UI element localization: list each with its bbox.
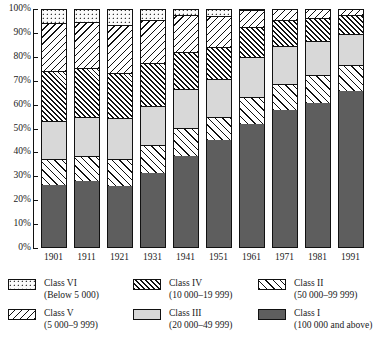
bar-stack[interactable] [338,9,364,248]
bar-segment-class-iii[interactable] [240,57,264,97]
bar-segment-class-ii[interactable] [207,117,231,141]
bar-segment-class-i[interactable] [306,103,330,247]
y-axis-tick-label: 30% [1,171,31,181]
y-axis-tick-label: 90% [1,28,31,38]
bar-segment-class-vi[interactable] [141,9,165,19]
legend-class-name: Class III [169,307,261,319]
bar-stack[interactable] [140,9,166,248]
bar-segment-class-i[interactable] [108,186,132,247]
bar-segment-class-i[interactable] [141,173,165,247]
legend-entry[interactable]: Class IV(10 000–19 999) [133,278,261,306]
bar-segment-class-iv[interactable] [42,71,66,121]
bar-segment-class-vi[interactable] [207,9,231,16]
bar-segment-class-v[interactable] [339,9,363,15]
bar-column[interactable] [338,9,364,248]
bar-stack[interactable] [305,9,331,248]
bar-segment-class-iii[interactable] [306,41,330,75]
legend-entry[interactable]: Class III(20 000–49 999) [133,308,261,336]
bar-segment-class-iv[interactable] [174,52,198,90]
bar-segment-class-ii[interactable] [339,65,363,91]
bar-segment-class-iii[interactable] [108,118,132,158]
bar-segment-class-ii[interactable] [75,156,99,181]
bar-segment-class-iii[interactable] [174,89,198,128]
bar-segment-class-iii[interactable] [273,46,297,84]
bar-segment-class-i[interactable] [174,156,198,247]
bar-segment-class-v[interactable] [42,23,66,71]
legend-text: Class II(50 000–99 999) [294,277,385,301]
bar-segment-class-v[interactable] [75,22,99,68]
bar-segment-class-i[interactable] [207,140,231,247]
legend-entry[interactable]: Class VI(Below 5 000) [8,278,136,306]
bar-segment-class-i[interactable] [75,181,99,247]
y-axis-tick-mark [33,105,38,106]
bar-segment-class-iii[interactable] [75,117,99,156]
bar-segment-class-v[interactable] [108,25,132,73]
bar-stack[interactable] [239,9,265,248]
y-axis-tick-label: 0% [1,243,31,253]
bar-segment-class-iii[interactable] [141,106,165,145]
bar-segment-class-iii[interactable] [42,121,66,158]
legend-class-range: (5 000–9 999) [44,319,136,331]
x-axis-tick-label: 1921 [103,252,137,263]
y-axis-tick-mark [33,200,38,201]
bar-segment-class-iv[interactable] [75,68,99,117]
bar-column[interactable] [272,9,298,248]
bar-segment-class-iv[interactable] [273,20,297,46]
bar-column[interactable] [305,9,331,248]
y-axis-tick-label: 20% [1,195,31,205]
bar-segment-class-vi[interactable] [174,9,198,15]
bar-segment-class-ii[interactable] [141,145,165,172]
bar-stack[interactable] [206,9,232,248]
bar-stack[interactable] [41,9,67,248]
bar-segment-class-v[interactable] [306,9,330,18]
bar-segment-class-vi[interactable] [75,9,99,22]
bar-stack[interactable] [173,9,199,248]
legend-entry[interactable]: Class I(100 000 and above) [258,308,385,336]
legend-class-name: Class V [44,307,136,319]
bar-segment-class-iv[interactable] [339,15,363,34]
bar-segment-class-v[interactable] [174,15,198,51]
legend-text: Class IV(10 000–19 999) [169,277,261,301]
bar-segment-class-i[interactable] [273,110,297,247]
bar-segment-class-iv[interactable] [207,47,231,80]
bar-column[interactable] [41,9,67,248]
bar-segment-class-v[interactable] [141,20,165,63]
y-axis-tick-label: 50% [1,124,31,134]
legend-class-name: Class IV [169,277,261,289]
bar-segment-class-ii[interactable] [108,159,132,186]
bar-column[interactable] [74,9,100,248]
bar-segment-class-v[interactable] [240,10,264,26]
bar-column[interactable] [239,9,265,248]
y-axis-tick-mark [33,57,38,58]
bar-segment-class-ii[interactable] [42,159,66,185]
bar-segment-class-ii[interactable] [273,84,297,110]
legend-entry[interactable]: Class V(5 000–9 999) [8,308,136,336]
bar-segment-class-iv[interactable] [240,27,264,57]
bar-segment-class-v[interactable] [207,16,231,47]
bar-segment-class-i[interactable] [240,124,264,247]
bar-segment-class-iv[interactable] [306,18,330,41]
class-i-swatch [258,309,286,320]
bar-stack[interactable] [107,9,133,248]
bar-segment-class-ii[interactable] [240,97,264,124]
bar-segment-class-iv[interactable] [108,73,132,118]
bar-column[interactable] [173,9,199,248]
bar-segment-class-i[interactable] [339,91,363,247]
bar-stack[interactable] [74,9,100,248]
bar-column[interactable] [206,9,232,248]
bar-segment-class-ii[interactable] [306,75,330,103]
x-axis-tick-label: 1971 [268,252,302,263]
bar-segment-class-v[interactable] [273,9,297,20]
legend-entry[interactable]: Class II(50 000–99 999) [258,278,385,306]
bar-stack[interactable] [272,9,298,248]
bar-segment-class-vi[interactable] [240,9,264,10]
bar-column[interactable] [140,9,166,248]
bar-segment-class-iv[interactable] [141,63,165,106]
bar-segment-class-ii[interactable] [174,128,198,155]
bar-segment-class-iii[interactable] [207,79,231,117]
bar-segment-class-iii[interactable] [339,34,363,66]
bar-segment-class-vi[interactable] [108,9,132,25]
bar-column[interactable] [107,9,133,248]
bar-segment-class-vi[interactable] [42,9,66,23]
bar-segment-class-i[interactable] [42,185,66,247]
